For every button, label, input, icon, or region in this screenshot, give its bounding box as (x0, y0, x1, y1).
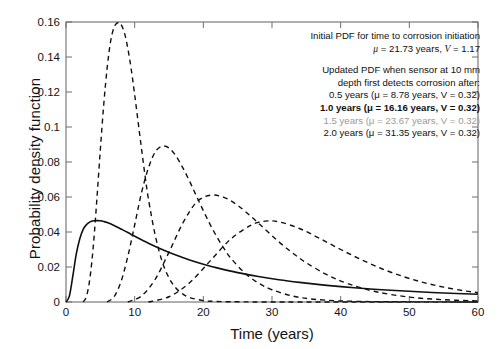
x-tick-20: 20 (183, 306, 223, 318)
x-tick-50: 50 (389, 306, 429, 318)
curve-3 (128, 195, 478, 302)
y-tick-0.1: 0.1 (24, 121, 60, 133)
legend-updated-line1: Updated PDF when sensor at 10 mm (252, 64, 480, 77)
y-tick-0.12: 0.12 (24, 86, 60, 98)
legend-block-initial: Initial PDF for time to corrosion initia… (252, 30, 480, 55)
curve-2 (107, 146, 478, 302)
y-tick-0.04: 0.04 (24, 226, 60, 238)
y-tick-0.16: 0.16 (24, 16, 60, 28)
y-tick-0.06: 0.06 (24, 191, 60, 203)
legend-initial-line2: μ = 21.73 years, V = 1.17 (252, 43, 480, 56)
y-tick-0.08: 0.08 (24, 156, 60, 168)
legend-entry-0: 0.5 years (μ = 8.78 years, V = 0.32) (252, 89, 480, 102)
x-axis-label: Time (years) (66, 325, 478, 342)
curve-4 (148, 221, 478, 302)
legend-block-updated: Updated PDF when sensor at 10 mm depth f… (252, 64, 480, 140)
y-tick-0.02: 0.02 (24, 261, 60, 273)
chart-container: Probability density function 00.020.040.… (0, 0, 499, 349)
legend-entry-2: 1.5 years (μ = 23.67 years, V = 0.32) (252, 115, 480, 128)
x-tick-40: 40 (321, 306, 361, 318)
x-tick-0: 0 (46, 306, 86, 318)
y-tick-0.14: 0.14 (24, 51, 60, 63)
legend-initial-line1: Initial PDF for time to corrosion initia… (252, 30, 480, 43)
x-tick-60: 60 (458, 306, 498, 318)
legend-entry-3: 2.0 years (μ = 31.35 years, V = 0.32) (252, 127, 480, 140)
legend-updated-line2: depth first detects corrosion after: (252, 77, 480, 90)
x-tick-30: 30 (252, 306, 292, 318)
y-axis-tick-labels: 00.020.040.060.080.10.120.140.16 (22, 0, 60, 349)
legend-entry-1: 1.0 years (μ = 16.16 years, V = 0.32) (252, 102, 480, 115)
x-tick-10: 10 (115, 306, 155, 318)
legend: Initial PDF for time to corrosion initia… (252, 30, 480, 149)
